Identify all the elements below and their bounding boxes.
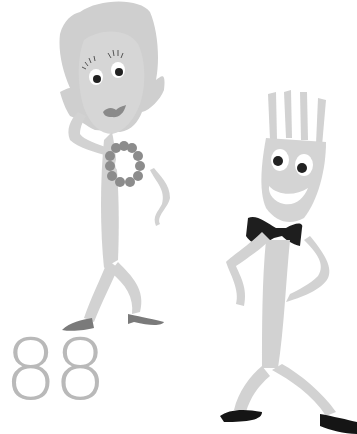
spoon-lady <box>59 2 170 331</box>
illustration: 88 <box>0 0 357 434</box>
fork-man <box>220 90 357 434</box>
number-88: 88 <box>4 328 103 412</box>
